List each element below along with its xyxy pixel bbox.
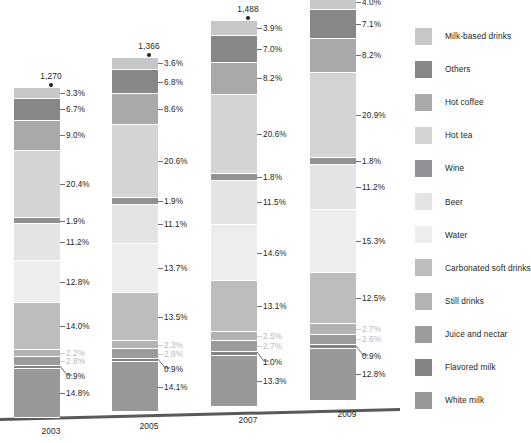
bar-total-label: 1,270 (14, 71, 88, 81)
segment-leader-line (356, 298, 361, 299)
bar-segment: 11.2% (14, 224, 60, 261)
segment-leader-line (356, 161, 361, 162)
segment-value-label: 14.8% (66, 388, 90, 397)
segment-value-label: 0.9% (66, 372, 85, 381)
bar-segment: 6.7% (14, 99, 60, 121)
bar-stack: 4.0%7.1%8.2%20.9%1.8%11.2%15.3%12.5%2.7%… (310, 0, 356, 401)
segment-value-label: 1.8% (362, 156, 381, 165)
bar-segment: 12.8% (14, 261, 60, 303)
legend-color-swatch (415, 193, 432, 210)
bar-segment: 2.5% (211, 332, 257, 342)
segment-value-label: 8.6% (164, 105, 183, 114)
legend-item-label: Juice and nectar (445, 330, 507, 338)
segment-leader-line (257, 381, 262, 382)
segment-leader-line (60, 184, 65, 185)
segment-value-label: 1.9% (66, 216, 85, 225)
segment-leader-line (60, 393, 65, 394)
bar-group: 1,4883.9%7.0%8.2%20.6%1.8%11.5%14.6%13.1… (211, 0, 311, 443)
legend-item[interactable]: Juice and nectar (415, 324, 527, 345)
segment-leader-line (158, 317, 163, 318)
bar-stack: 3.9%7.0%8.2%20.6%1.8%11.5%14.6%13.1%2.5%… (211, 21, 257, 407)
bar-segment: 20.4% (14, 151, 60, 218)
segment-value-label: 14.1% (164, 382, 188, 391)
segment-leader-line (60, 221, 65, 222)
legend-color-swatch (415, 226, 432, 243)
bar-stack: 3.3%6.7%9.0%20.4%1.9%11.2%12.8%14.0%2.2%… (14, 88, 60, 418)
legend-item[interactable]: Hot coffee (415, 92, 527, 113)
segment-value-label: 2.7% (362, 324, 381, 333)
segment-value-label: 3.3% (66, 88, 85, 97)
legend-item-label: Water (445, 231, 467, 239)
x-axis-tick-label: 2005 (114, 421, 184, 431)
bar-segment: 3.6% (112, 58, 158, 71)
legend-item[interactable]: Beer (415, 191, 527, 212)
segment-value-label: 2.6% (362, 335, 381, 344)
segment-value-label: 0.9% (164, 365, 183, 374)
legend-item[interactable]: Water (415, 225, 527, 246)
segment-leader-line (158, 268, 163, 269)
segment-value-label: 13.3% (263, 376, 287, 385)
segment-value-label: 12.5% (362, 293, 386, 302)
segment-value-label: 11.1% (164, 220, 187, 229)
plot-area: 1,2703.3%6.7%9.0%20.4%1.9%11.2%12.8%14.0… (0, 0, 410, 443)
segment-value-label: 2.8% (66, 356, 85, 365)
segment-leader-line (257, 306, 262, 307)
legend-item[interactable]: Milk-based drinks (415, 26, 527, 47)
legend-item-label: Carbonated soft drinks (445, 264, 531, 272)
bar-segment: 2.8% (112, 349, 158, 359)
legend-item[interactable]: Carbonated soft drinks (415, 258, 527, 279)
legend-item[interactable]: Hot tea (415, 125, 527, 146)
legend-item[interactable]: Wine (415, 158, 527, 179)
segment-value-label: 6.8% (164, 77, 183, 86)
segment-value-label: 7.0% (263, 44, 282, 53)
segment-leader-line (60, 353, 65, 354)
legend-item[interactable]: Still drinks (415, 291, 527, 312)
bar-segment: 13.3% (211, 356, 257, 407)
bar-segment: 14.0% (14, 303, 60, 349)
legend-color-swatch (415, 61, 432, 78)
legend-item-label: Hot tea (445, 131, 472, 139)
bar-total-label: 1,366 (112, 41, 186, 51)
segment-leader-line (356, 115, 361, 116)
segment-leader-line (356, 55, 361, 56)
segment-value-label: 1.8% (263, 172, 282, 181)
segment-leader-line (60, 242, 65, 243)
segment-value-label: 13.7% (164, 264, 188, 273)
segment-value-label: 1.9% (164, 197, 183, 206)
bar-segment: 8.2% (211, 63, 257, 95)
segment-value-label: 9.0% (66, 131, 85, 140)
bar-group: 1,5674.0%7.1%8.2%20.9%1.8%11.2%15.3%12.5… (310, 0, 410, 443)
segment-leader-line (158, 201, 163, 202)
segment-value-label: 20.9% (362, 110, 386, 119)
segment-leader-line (257, 134, 262, 135)
bar-segment: 20.6% (112, 125, 158, 198)
bar-stack: 3.6%6.8%8.6%20.6%1.9%11.1%13.7%13.5%2.3%… (112, 58, 158, 413)
legend-item[interactable]: White milk (415, 390, 527, 411)
segment-leader-line (60, 361, 65, 362)
legend-color-swatch (415, 127, 432, 144)
segment-value-label: 20.6% (263, 129, 287, 138)
segment-leader-line (158, 82, 163, 83)
legend-item[interactable]: Flavored milk (415, 357, 527, 378)
segment-leader-line (60, 93, 65, 94)
bar-segment: 7.0% (211, 36, 257, 63)
legend-item-label: White milk (445, 396, 484, 404)
bar-segment: 8.2% (310, 39, 356, 72)
segment-leader-line (158, 161, 163, 162)
legend-color-swatch (415, 326, 432, 343)
legend-item-label: Milk-based drinks (445, 32, 511, 40)
segment-leader-line (257, 253, 262, 254)
segment-leader-line (158, 63, 163, 64)
segment-leader-line (356, 374, 361, 375)
segment-value-label: 6.7% (66, 105, 85, 114)
segment-leader-line (257, 49, 262, 50)
bar-segment: 11.1% (112, 205, 158, 244)
legend-item-label: Flavored milk (445, 363, 496, 371)
legend-item-label: Hot coffee (445, 98, 484, 106)
bar-segment: 14.6% (211, 225, 257, 281)
legend-item[interactable]: Others (415, 59, 527, 80)
legend-color-swatch (415, 28, 432, 45)
segment-value-label: 3.9% (263, 24, 282, 33)
segment-leader-line (60, 282, 65, 283)
segment-leader-line (356, 24, 361, 25)
